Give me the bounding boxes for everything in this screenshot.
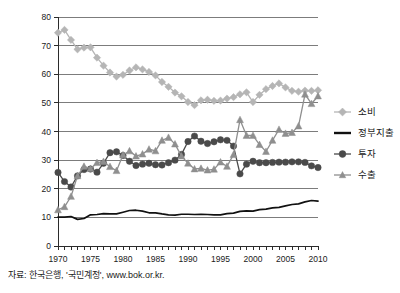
y-tick-label-50: 50 bbox=[42, 98, 52, 108]
x-tick-label-2010: 2010 bbox=[309, 254, 328, 264]
y-tick-label-60: 60 bbox=[42, 69, 52, 79]
legend-label: 소비 bbox=[358, 106, 376, 117]
series-marker bbox=[237, 171, 243, 177]
series-marker bbox=[165, 160, 171, 166]
series-marker bbox=[107, 149, 113, 155]
x-tick-label-1970: 1970 bbox=[49, 254, 68, 264]
x-tick-label-1985: 1985 bbox=[146, 254, 165, 264]
y-tick-label-80: 80 bbox=[42, 12, 52, 22]
y-tick-label-40: 40 bbox=[42, 127, 52, 137]
y-tick-label-10: 10 bbox=[42, 212, 52, 222]
series-marker bbox=[302, 159, 308, 165]
source-note: 자료: 한국은행, '국민계정', www.bok.or.kr. bbox=[8, 268, 164, 281]
series-marker bbox=[191, 133, 197, 139]
series-marker bbox=[198, 138, 204, 144]
series-marker bbox=[55, 169, 61, 175]
x-axis-labels: 197019751980198519901995200020052010 bbox=[49, 254, 328, 264]
series-marker bbox=[185, 138, 191, 144]
chart-background bbox=[0, 0, 400, 293]
y-tick-label-70: 70 bbox=[42, 41, 52, 51]
series-marker bbox=[217, 137, 223, 143]
series-marker bbox=[94, 169, 100, 175]
series-marker bbox=[256, 160, 262, 166]
gdp-composition-line-chart: 01020304050607080 1970197519801985199019… bbox=[0, 0, 400, 293]
legend-label: 정부지출 bbox=[358, 127, 394, 138]
series-marker bbox=[152, 162, 158, 168]
series-marker bbox=[159, 162, 165, 168]
legend-label: 수출 bbox=[358, 169, 376, 180]
series-marker bbox=[61, 178, 67, 184]
x-tick-label-2005: 2005 bbox=[276, 254, 295, 264]
series-marker bbox=[269, 159, 275, 165]
series-marker bbox=[146, 160, 152, 166]
series-marker bbox=[126, 158, 132, 164]
series-marker bbox=[250, 158, 256, 164]
series-marker bbox=[204, 140, 210, 146]
series-marker bbox=[133, 162, 139, 168]
y-tick-label-30: 30 bbox=[42, 155, 52, 165]
legend-swatch-marker bbox=[339, 151, 346, 158]
series-marker bbox=[308, 163, 314, 169]
series-marker bbox=[243, 161, 249, 167]
series-marker bbox=[276, 159, 282, 165]
x-tick-label-1975: 1975 bbox=[81, 254, 100, 264]
y-axis-labels: 01020304050607080 bbox=[42, 12, 52, 251]
x-tick-label-1990: 1990 bbox=[179, 254, 198, 264]
series-marker bbox=[282, 159, 288, 165]
x-tick-label-1995: 1995 bbox=[211, 254, 230, 264]
series-marker bbox=[315, 164, 321, 170]
series-marker bbox=[113, 149, 119, 155]
legend-label: 투자 bbox=[358, 148, 376, 159]
series-marker bbox=[289, 159, 295, 165]
chart-figure: 01020304050607080 1970197519801985199019… bbox=[0, 0, 400, 293]
y-tick-label-0: 0 bbox=[46, 241, 51, 251]
series-marker bbox=[211, 139, 217, 145]
x-tick-label-1980: 1980 bbox=[114, 254, 133, 264]
series-marker bbox=[263, 160, 269, 166]
x-tick-label-2000: 2000 bbox=[244, 254, 263, 264]
y-tick-label-20: 20 bbox=[42, 184, 52, 194]
series-marker bbox=[139, 161, 145, 167]
series-marker bbox=[172, 157, 178, 163]
series-marker bbox=[224, 137, 230, 143]
series-marker bbox=[295, 159, 301, 165]
